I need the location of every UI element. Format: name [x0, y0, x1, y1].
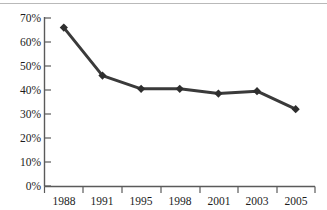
- x-tick-label-1995: 1995: [130, 195, 153, 207]
- x-tick-label-1998: 1998: [169, 195, 192, 207]
- y-tick-label-30: 30%: [20, 108, 42, 120]
- data-line-series: [64, 28, 296, 110]
- data-point-1998: [176, 85, 184, 93]
- y-axis-ticks: [45, 18, 52, 186]
- y-tick-label-0: 0%: [26, 180, 42, 192]
- y-tick-label-10: 10%: [20, 156, 42, 168]
- y-tick-label-50: 50%: [20, 60, 42, 72]
- data-point-2001: [214, 90, 222, 98]
- x-axis-labels: 1988 1991 1995 1998 2001 2003 2005: [53, 195, 308, 207]
- y-tick-label-60: 60%: [20, 36, 42, 48]
- x-tick-label-2001: 2001: [208, 195, 231, 207]
- y-tick-label-20: 20%: [20, 132, 42, 144]
- x-tick-label-2005: 2005: [285, 195, 308, 207]
- line-chart: 70% 60% 50% 40% 30% 20% 10% 0% 1988 1991…: [0, 0, 327, 210]
- x-tick-label-1988: 1988: [53, 195, 76, 207]
- data-point-1995: [137, 85, 145, 93]
- y-axis-labels: 70% 60% 50% 40% 30% 20% 10% 0%: [20, 12, 42, 192]
- x-tick-label-2003: 2003: [246, 195, 269, 207]
- chart-figure: 70% 60% 50% 40% 30% 20% 10% 0% 1988 1991…: [0, 0, 327, 210]
- y-tick-label-40: 40%: [20, 84, 42, 96]
- x-axis-ticks: [45, 187, 316, 194]
- x-tick-label-1991: 1991: [91, 195, 114, 207]
- y-tick-label-70: 70%: [20, 12, 42, 24]
